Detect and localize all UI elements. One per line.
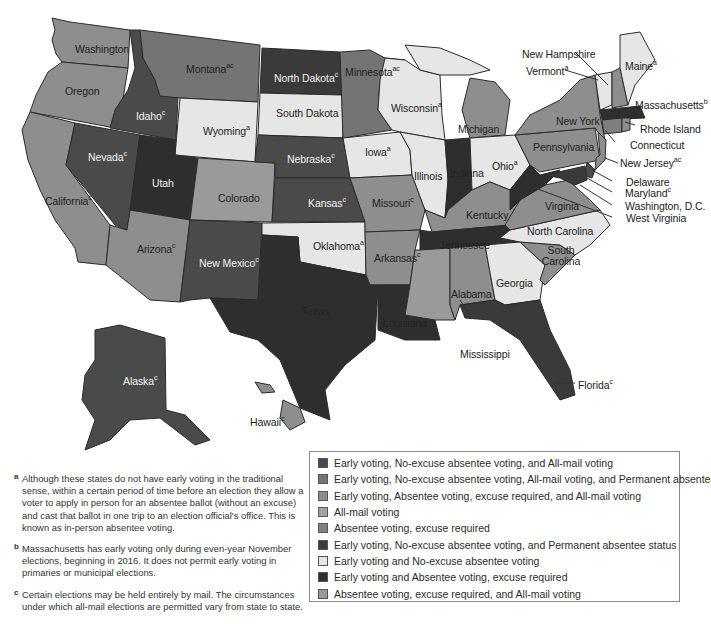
legend-swatch (318, 523, 328, 533)
legend-item: Absentee voting, excuse required (310, 520, 679, 536)
label-louisiana: Louisiana (383, 318, 427, 329)
footnote-a: aAlthough these states do not have early… (14, 473, 304, 534)
state-hawaii-islands (255, 382, 275, 393)
label-pennsylvania: Pennsylvania (533, 142, 594, 153)
legend-swatch (318, 491, 328, 501)
footnote-c: cCertain elections may be held entirely … (14, 589, 304, 613)
label-kentucky: Kentucky (466, 210, 508, 221)
label-florida: Floridac (578, 380, 613, 391)
legend-swatch (318, 458, 328, 468)
label-washington: Washington (75, 44, 129, 55)
label-texas: Texas (302, 306, 329, 317)
label-wisconsin: Wisconsina (391, 103, 442, 114)
legend-swatch (318, 572, 328, 582)
label-minnesota: Minnesotaac (345, 67, 400, 78)
label-vermont: Vermonta (526, 66, 568, 77)
label-missouri: Missouric (372, 198, 414, 209)
label-ohio: Ohioa (492, 161, 518, 172)
label-mississippi: Mississippi (460, 349, 510, 360)
label-south-carolina: South Carolina (536, 245, 586, 266)
label-tennessee: Tennessee (440, 240, 490, 251)
label-nebraska: Nebraskac (287, 154, 335, 165)
legend-item: Early voting and No-excuse absentee voti… (310, 553, 679, 569)
label-kansas: Kansasc (308, 198, 346, 209)
label-georgia: Georgia (496, 278, 533, 289)
us-voting-map: Washington Oregon Californiac Idahoc Nev… (0, 0, 711, 455)
footnotes: aAlthough these states do not have early… (14, 473, 304, 622)
legend-swatch (318, 556, 328, 566)
label-new-york: New York (556, 116, 600, 127)
state-rhode-island (622, 118, 630, 132)
label-delaware: Delaware (626, 177, 670, 188)
footnote-b: bMassachusetts has early voting only dur… (14, 543, 304, 580)
legend-swatch (318, 540, 328, 550)
label-california: Californiac (45, 196, 92, 207)
label-oregon: Oregon (65, 86, 99, 97)
label-north-carolina: North Carolina (527, 226, 593, 237)
state-alaska (82, 325, 210, 450)
label-oklahoma: Oklahomaa (313, 241, 364, 252)
legend-swatch (318, 474, 328, 484)
label-south-dakota: South Dakota (276, 108, 338, 119)
label-colorado: Colorado (218, 193, 260, 204)
legend-item: Early voting, Absentee voting, excuse re… (310, 488, 679, 504)
label-indiana: Indiana (450, 168, 484, 179)
label-michigan: Michigan (458, 124, 499, 135)
label-virginia: Virginia (545, 201, 579, 212)
label-maine: Mainea (625, 61, 657, 72)
label-rhode-island: Rhode Island (640, 124, 701, 135)
label-idaho: Idahoc (136, 111, 165, 122)
label-connecticut: Connecticut (630, 140, 684, 151)
legend-item: Early voting and Absentee voting, excuse… (310, 569, 679, 585)
label-new-mexico: New Mexicoc (199, 258, 259, 269)
label-nevada: Nevadac (88, 152, 127, 163)
label-west-virginia: West Virginia (626, 213, 686, 224)
state-colorado (190, 158, 275, 222)
legend-swatch (318, 507, 328, 517)
legend-item: Early voting, No-excuse absentee voting,… (310, 471, 679, 487)
label-new-jersey: New Jerseyac (620, 158, 681, 169)
legend-swatch (318, 589, 328, 599)
label-hawaii: Hawaiic (250, 417, 284, 428)
label-illinois: Illinois (414, 171, 442, 182)
label-massachusetts: Massachusettsb (635, 100, 708, 111)
label-arizona: Arizonac (137, 244, 175, 255)
legend: Early voting, No-excuse absentee voting,… (309, 451, 680, 602)
label-north-dakota: North Dakotac (274, 73, 338, 84)
state-connecticut (602, 118, 622, 134)
legend-item: All-mail voting (310, 504, 679, 520)
label-arkansas: Arkansasc (374, 253, 420, 264)
label-wyoming: Wyominga (203, 126, 250, 137)
label-washington-dc: Washington, D.C. (625, 201, 705, 212)
legend-item: Early voting, No-excuse absentee voting,… (310, 455, 679, 471)
legend-item: Absentee voting, excuse required, and Al… (310, 585, 679, 601)
label-alaska: Alaskac (123, 376, 157, 387)
label-utah: Utah (152, 178, 174, 189)
label-new-hampshire: New Hampshire (522, 49, 595, 60)
label-iowa: Iowaa (365, 147, 391, 158)
label-montana: Montanaac (186, 64, 233, 75)
legend-item: Early voting, No-excuse absentee voting,… (310, 536, 679, 552)
label-alabama: Alabama (451, 289, 492, 300)
label-maryland: Marylandc (625, 188, 671, 199)
